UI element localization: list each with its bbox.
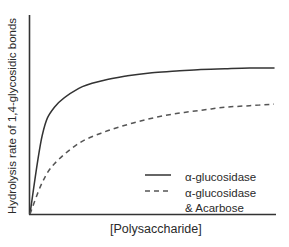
legend-label: α-glucosidase — [185, 186, 256, 200]
chart: Hydrolysis rate of 1,4-glycosidic bonds … — [0, 0, 289, 247]
legend-label: α-glucosidase — [185, 170, 256, 184]
x-axis-label: [Polysaccharide] — [110, 222, 202, 236]
solid-line-icon — [145, 170, 171, 178]
dashed-line-icon — [145, 186, 171, 194]
legend-item-solid: α-glucosidase — [145, 170, 256, 186]
y-axis-label: Hydrolysis rate of 1,4-glycosidic bonds — [6, 18, 18, 214]
legend-item-dashed: α-glucosidase — [145, 186, 256, 202]
legend-sublabel: & Acarbose — [145, 202, 256, 215]
legend: α-glucosidase α-glucosidase & Acarbose — [145, 170, 256, 215]
